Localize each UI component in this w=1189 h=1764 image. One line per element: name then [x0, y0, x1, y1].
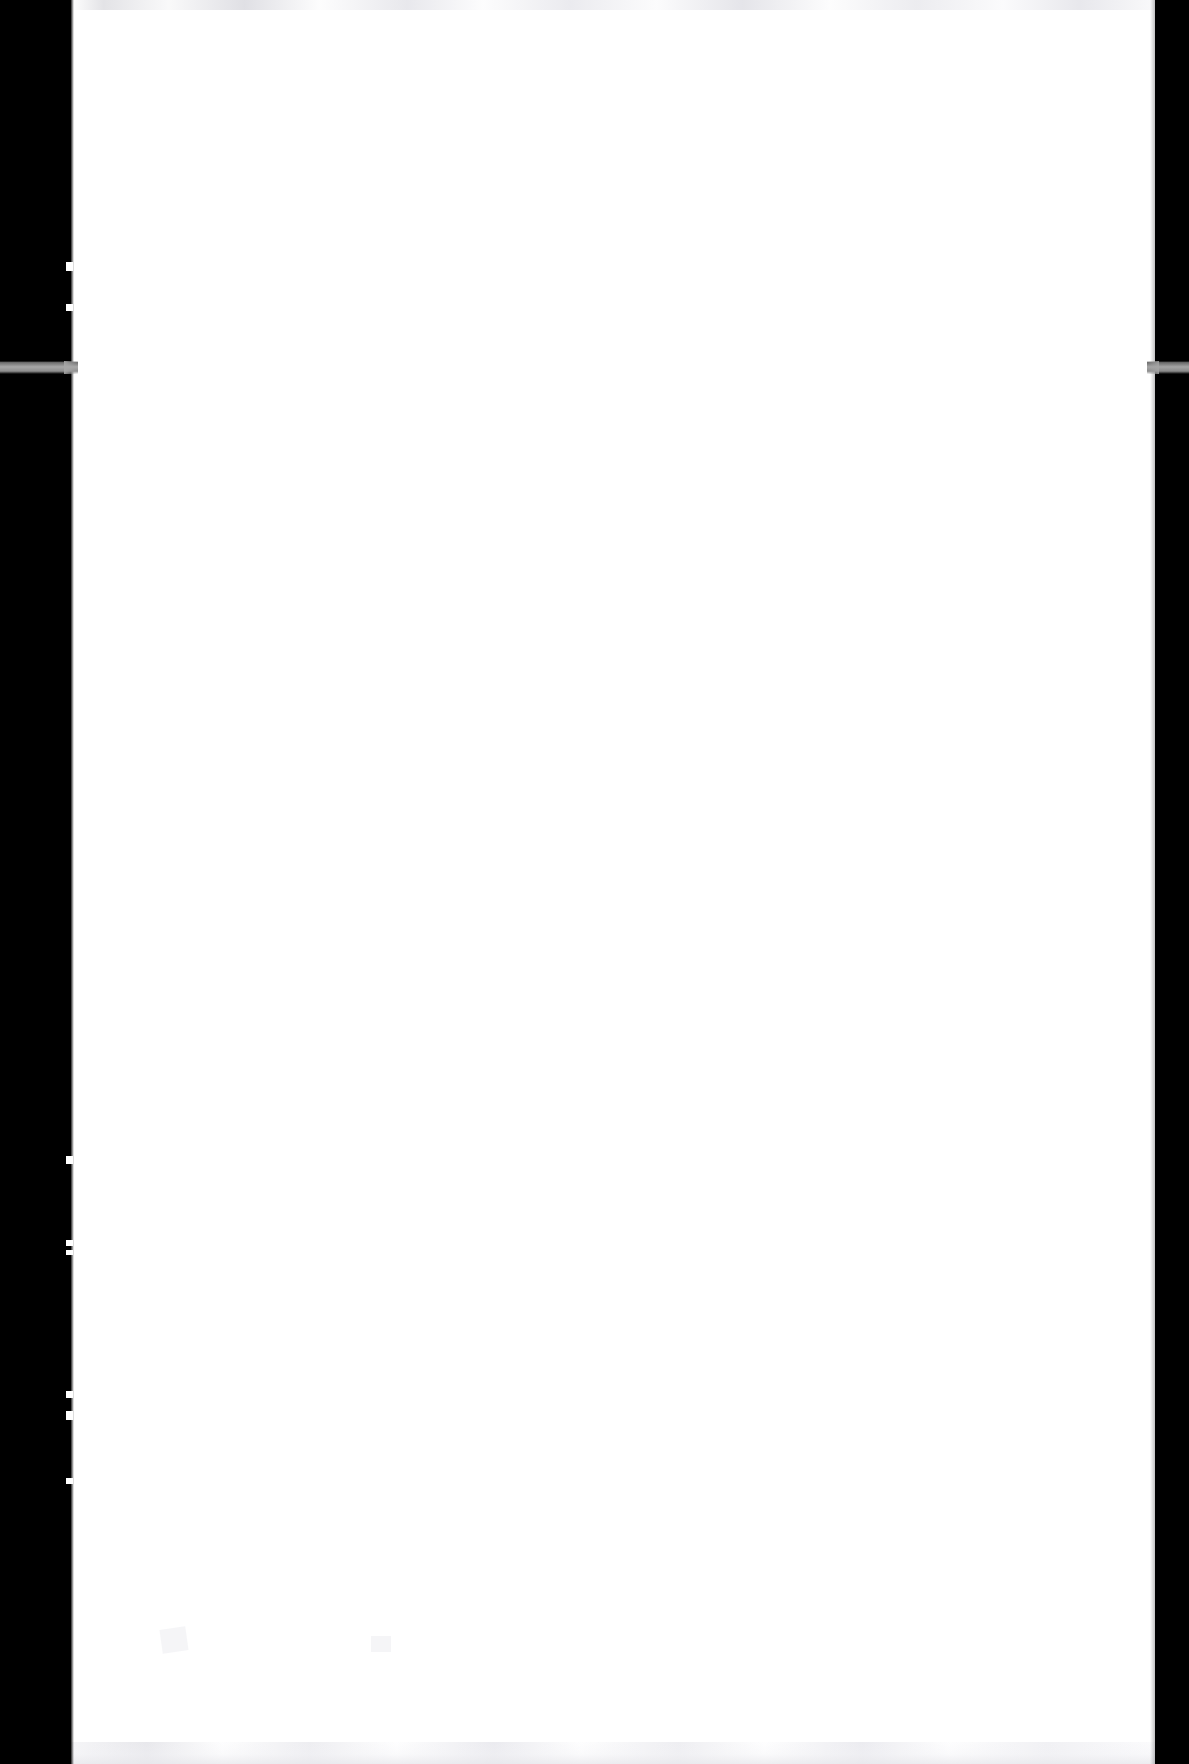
page-edge-notch	[66, 262, 73, 271]
page-edge-notch	[66, 1250, 73, 1255]
top-scan-smudge-artifact	[71, 0, 1155, 10]
bottom-scan-smudge-artifact	[71, 1742, 1155, 1764]
page-content-area	[71, 26, 1155, 1738]
page-sheet	[71, 0, 1155, 1764]
scanner-bed-bar-right	[1155, 0, 1189, 1764]
page-body	[71, 26, 1155, 1738]
page-edge-notch	[66, 304, 73, 311]
scanner-bed-bar-left	[0, 0, 71, 1764]
page-edge-notch	[66, 1478, 73, 1484]
page-edge-notch	[66, 1411, 73, 1420]
scanned-page-canvas	[0, 0, 1189, 1764]
page-edge-notch	[66, 1391, 73, 1398]
page-edge-notch	[66, 1156, 73, 1164]
page-edge-notch	[66, 1240, 73, 1246]
